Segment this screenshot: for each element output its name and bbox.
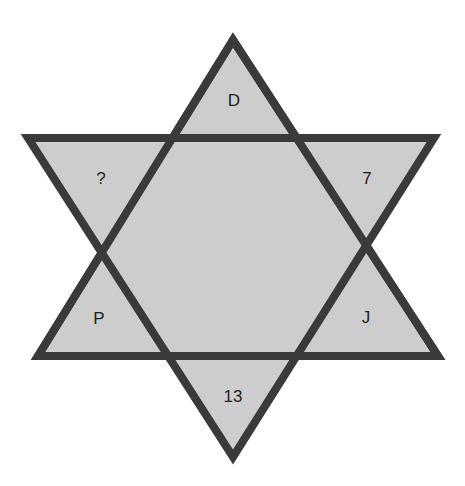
region-label-upper-left: ? (96, 169, 105, 188)
region-label-bottom: 13 (224, 387, 243, 406)
hexagram-diagram: D ? 7 P J 13 (0, 0, 465, 486)
region-label-upper-right: 7 (362, 169, 371, 188)
region-label-lower-left: P (93, 309, 104, 328)
region-label-lower-right: J (362, 308, 371, 327)
region-label-top: D (228, 91, 240, 110)
